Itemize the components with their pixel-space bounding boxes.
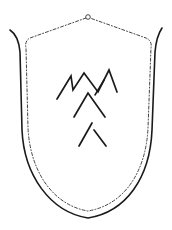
zigzag-inner-stroke [95,80,104,95]
inner-dashed-border [26,18,152,211]
shield-figure: shield with mason's mark [0,0,172,230]
lower-chevron-right [94,130,106,146]
suspension-ring [86,15,91,20]
shield-drawing [0,0,172,230]
upper-chevron [74,93,105,117]
lower-chevron-left [79,123,92,146]
outer-shield-outline [10,28,162,218]
